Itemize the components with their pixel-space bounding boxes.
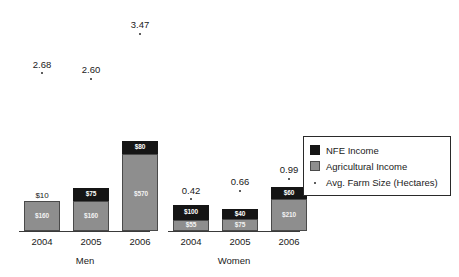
stacked-bar-chart: $160 $10 2.68 $160 $75 2.60 $570 $80	[0, 0, 459, 277]
bar-segment-agricultural[interactable]: $210	[271, 199, 307, 231]
legend-label: Agricultural Income	[326, 161, 407, 172]
farm-size-dot-men-2005	[90, 78, 92, 80]
farm-size-value-men-2004: 2.68	[22, 59, 62, 70]
farm-size-value-men-2005: 2.60	[71, 64, 111, 75]
bar-segment-agricultural[interactable]: $160	[73, 201, 109, 231]
bar-segment-label: $60	[284, 190, 295, 197]
legend-item-avg-farm-size[interactable]: Avg. Farm Size (Hectares)	[310, 174, 445, 190]
bar-segment-agricultural[interactable]: $75	[222, 219, 258, 231]
bar-segment-nfe[interactable]: $100	[173, 205, 209, 220]
bar-women-2005[interactable]: $75 $40	[222, 209, 258, 231]
bar-segment-label: $570	[123, 191, 159, 198]
farm-size-dot-women-2005	[239, 190, 241, 192]
bar-women-2004[interactable]: $55 $100	[173, 205, 209, 231]
farm-size-dot-women-2006	[288, 178, 290, 180]
farm-size-value-men-2006: 3.47	[120, 19, 160, 30]
bar-segment-nfe[interactable]: $60	[271, 187, 307, 199]
bar-segment-nfe[interactable]: $75	[73, 188, 109, 201]
x-tick-women-2004: 2004	[171, 236, 211, 247]
farm-size-dot-women-2004	[190, 198, 192, 200]
x-tick-men-2006: 2006	[120, 236, 160, 247]
bar-men-2004[interactable]: $160 $10	[24, 201, 60, 231]
bar-men-2005[interactable]: $160 $75	[73, 188, 109, 231]
bar-segment-agricultural[interactable]: $55	[173, 220, 209, 231]
group-label-women: Women	[194, 255, 274, 266]
bar-segment-label: $80	[135, 144, 146, 151]
dot-marker-swatch-icon	[310, 177, 320, 187]
bar-segment-label: $210	[282, 212, 296, 219]
chart-legend: NFE Income Agricultural Income Avg. Farm…	[303, 136, 451, 196]
bar-segment-agricultural[interactable]: $570	[122, 154, 158, 231]
bar-segment-nfe[interactable]: $40	[222, 209, 258, 219]
farm-size-dot-men-2004	[41, 72, 43, 74]
group-label-men: Men	[45, 255, 125, 266]
plot-area: $160 $10 2.68 $160 $75 2.60 $570 $80	[0, 0, 459, 277]
bar-segment-label: $100	[184, 209, 198, 216]
legend-item-agricultural-income[interactable]: Agricultural Income	[310, 158, 445, 174]
legend-label: NFE Income	[326, 145, 379, 156]
x-tick-men-2004: 2004	[22, 236, 62, 247]
legend-label: Avg. Farm Size (Hectares)	[326, 177, 438, 188]
bar-segment-label: $160	[84, 213, 98, 220]
bar-segment-label-nfe: $10	[24, 192, 60, 200]
farm-size-value-women-2005: 0.66	[220, 176, 260, 187]
black-square-swatch-icon	[310, 145, 320, 155]
bar-segment-agricultural[interactable]: $160	[24, 201, 60, 231]
x-tick-men-2005: 2005	[71, 236, 111, 247]
bar-women-2006[interactable]: $210 $60	[271, 187, 307, 231]
legend-item-nfe-income[interactable]: NFE Income	[310, 142, 445, 158]
bar-segment-label: $40	[235, 211, 246, 218]
gray-square-swatch-icon	[310, 161, 320, 171]
bar-segment-label: $75	[86, 191, 97, 198]
axis-baseline-men	[19, 231, 150, 232]
bar-segment-label: $55	[186, 222, 197, 229]
bar-segment-label: $75	[235, 222, 246, 229]
farm-size-value-women-2004: 0.42	[171, 185, 211, 196]
bar-segment-label: $160	[35, 213, 49, 220]
x-tick-women-2006: 2006	[269, 236, 309, 247]
bar-segment-nfe[interactable]: $80	[122, 141, 158, 154]
bar-men-2006[interactable]: $570 $80	[122, 141, 158, 231]
x-tick-women-2005: 2005	[220, 236, 260, 247]
axis-baseline-women	[168, 231, 300, 232]
farm-size-dot-men-2006	[139, 33, 141, 35]
